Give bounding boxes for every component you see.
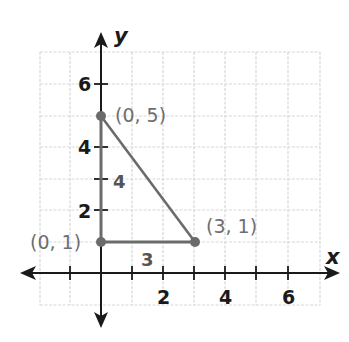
y-axis-label: y bbox=[114, 24, 129, 48]
x-tick-4: 4 bbox=[219, 286, 232, 308]
y-tick-2: 2 bbox=[78, 200, 91, 222]
point-0-5 bbox=[96, 111, 106, 121]
x-tick-6: 6 bbox=[282, 286, 295, 308]
x-axis bbox=[20, 266, 340, 280]
y-tick-4: 4 bbox=[78, 136, 91, 158]
side-length-horizontal: 3 bbox=[141, 249, 154, 270]
point-label-3-1: (3, 1) bbox=[206, 215, 257, 237]
coordinate-plane: y x 6 4 2 2 4 6 (0, 5) (0, 1) (3, 1) 4 3 bbox=[0, 0, 349, 342]
y-tick-6: 6 bbox=[78, 73, 91, 95]
point-label-0-5: (0, 5) bbox=[115, 104, 166, 126]
point-label-0-1: (0, 1) bbox=[30, 231, 81, 253]
side-length-vertical: 4 bbox=[113, 171, 126, 192]
x-axis-label: x bbox=[325, 245, 341, 269]
point-0-1 bbox=[96, 237, 106, 247]
x-tick-2: 2 bbox=[157, 286, 170, 308]
point-3-1 bbox=[190, 237, 200, 247]
